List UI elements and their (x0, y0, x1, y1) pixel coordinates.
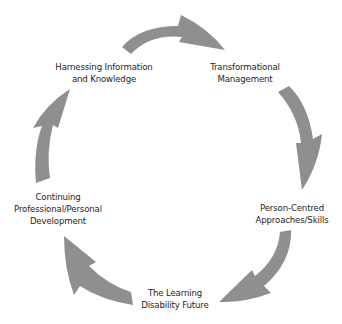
node-label-line: The Learning (130, 287, 220, 299)
node-label-line: Harnessing Information (52, 61, 156, 73)
arrow-learning-disability-to-continuing-icon (64, 236, 133, 305)
cycle-arrows (0, 0, 342, 324)
arrow-harnessing-to-transformational-icon (122, 15, 225, 54)
node-label-line: Continuing (8, 191, 108, 203)
node-label-line: Transformational (200, 61, 290, 73)
node-harnessing-information: Harnessing Information and Knowledge (52, 61, 156, 85)
node-label-line: Disability Future (130, 299, 220, 311)
arrow-transformational-to-person-centred-icon (278, 86, 322, 190)
node-label-line: Approaches/Skills (242, 214, 342, 226)
node-person-centred-approaches: Person-Centred Approaches/Skills (242, 202, 342, 226)
arrow-continuing-to-harnessing-icon (33, 89, 70, 183)
node-label-line: and Knowledge (52, 73, 156, 85)
node-learning-disability-future: The Learning Disability Future (130, 287, 220, 311)
node-label-line: Management (200, 73, 290, 85)
node-continuing-development: Continuing Professional/Personal Develop… (8, 191, 108, 227)
node-transformational-management: Transformational Management (200, 61, 290, 85)
node-label-line: Person-Centred (242, 202, 342, 214)
node-label-line: Professional/Personal (8, 203, 108, 215)
arrow-person-centred-to-learning-disability-icon (219, 230, 291, 302)
node-label-line: Development (8, 215, 108, 227)
cycle-diagram: Harnessing Information and Knowledge Tra… (0, 0, 342, 324)
